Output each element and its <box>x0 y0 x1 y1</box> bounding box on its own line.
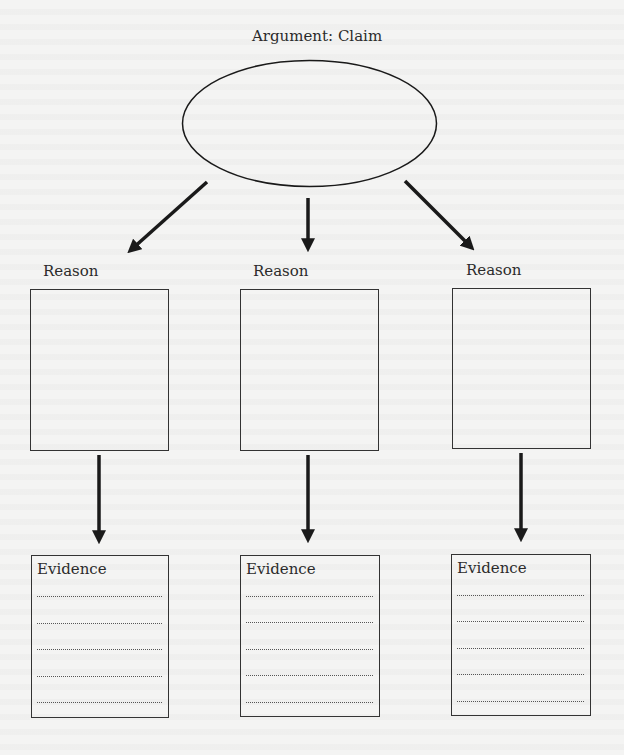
evidence-1-line-2[interactable] <box>37 623 162 624</box>
evidence-3-line-2[interactable] <box>457 621 584 622</box>
evidence-1-label: Evidence <box>37 560 107 578</box>
evidence-2-label: Evidence <box>246 560 316 578</box>
evidence-3-label: Evidence <box>457 559 527 577</box>
evidence-3-box[interactable]: Evidence <box>451 554 591 716</box>
evidence-3-line-1[interactable] <box>457 595 584 596</box>
reason-2-label: Reason <box>253 264 309 279</box>
reason-3-box[interactable] <box>452 288 591 449</box>
evidence-2-box[interactable]: Evidence <box>240 555 380 717</box>
reason-1-label: Reason <box>43 264 99 279</box>
evidence-1-line-1[interactable] <box>37 596 162 597</box>
arrow-claim-to-reason-3 <box>405 181 470 246</box>
reason-3-label: Reason <box>466 263 522 278</box>
evidence-2-line-3[interactable] <box>246 649 373 650</box>
evidence-1-line-4[interactable] <box>37 676 162 677</box>
evidence-1-line-5[interactable] <box>37 702 162 703</box>
evidence-2-line-5[interactable] <box>246 702 373 703</box>
arrow-claim-to-reason-1 <box>132 182 207 249</box>
reason-2-box[interactable] <box>240 289 379 451</box>
evidence-3-line-4[interactable] <box>457 674 584 675</box>
evidence-1-line-3[interactable] <box>37 649 162 650</box>
evidence-3-line-5[interactable] <box>457 701 584 702</box>
evidence-2-line-2[interactable] <box>246 622 373 623</box>
reason-1-box[interactable] <box>30 289 169 451</box>
claim-ellipse[interactable] <box>183 61 437 187</box>
evidence-3-line-3[interactable] <box>457 648 584 649</box>
evidence-2-line-1[interactable] <box>246 596 373 597</box>
evidence-1-box[interactable]: Evidence <box>31 555 169 718</box>
evidence-2-line-4[interactable] <box>246 675 373 676</box>
